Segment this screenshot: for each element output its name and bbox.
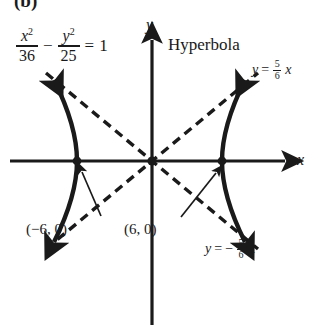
hyperbola-equation: x2 36 − y2 25 = 1 <box>16 28 108 64</box>
left-vertex-point <box>73 157 82 166</box>
asymptote-positive-slope-label: y = 5 6 x <box>252 59 291 81</box>
equation-term2-denominator: 25 <box>59 47 79 64</box>
asymptote-pos-slope-fraction: 5 6 <box>273 59 281 81</box>
origin-point <box>147 156 156 165</box>
y-axis-label: y <box>146 17 153 33</box>
asymptote-pos-equals: = <box>261 63 269 77</box>
asymptote-neg-slope-fraction: 5 6 <box>237 238 245 260</box>
equation-term1-denominator: 36 <box>17 47 37 64</box>
equation-operator: − <box>43 37 53 54</box>
asymptote-pos-variable: x <box>285 63 291 77</box>
left-vertex-label: (−6, 0) <box>26 222 67 237</box>
x-axis-label: x <box>297 152 304 168</box>
asymptote-pos-slope-numerator: 5 <box>275 59 280 70</box>
panel-letter: (b) <box>14 0 37 10</box>
equation-term2-numerator: y2 <box>61 28 77 45</box>
asymptote-neg-slope-numerator: 5 <box>239 238 244 249</box>
asymptote-negative-slope-label: y = − 5 6 x <box>205 238 255 260</box>
equation-term-x-squared-over-36: x2 36 <box>16 28 38 64</box>
figure-title: Hyperbola <box>168 36 240 53</box>
equation-right-side: 1 <box>99 37 108 54</box>
asymptote-neg-equals: = <box>214 242 222 256</box>
asymptote-neg-variable: x <box>249 242 255 256</box>
right-vertex-label: (6, 0) <box>124 222 157 237</box>
asymptote-neg-slope-denominator: 6 <box>239 250 244 261</box>
equation-equals-sign: = <box>85 37 95 54</box>
hyperbola-figure: (b) x2 36 − y2 25 = 1 Hyperbola y x y = … <box>0 0 320 325</box>
equation-term1-numerator: x2 <box>19 28 35 45</box>
asymptote-neg-y: y <box>205 242 211 256</box>
asymptote-neg-sign: − <box>225 242 233 256</box>
asymptote-pos-y: y <box>252 63 258 77</box>
right-vertex-point <box>218 157 227 166</box>
equation-term-y-squared-over-25: y2 25 <box>58 28 80 64</box>
asymptote-pos-slope-denominator: 6 <box>275 71 280 82</box>
